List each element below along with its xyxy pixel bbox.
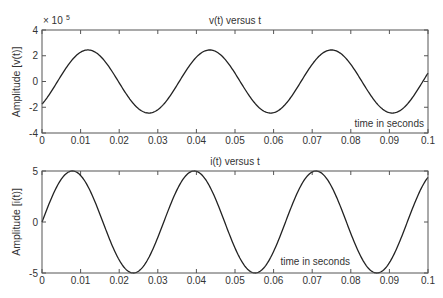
x-tick-label: 0.1 [421, 135, 435, 146]
y-tick-label: 0 [32, 76, 38, 87]
x-tick-label: 0.02 [109, 275, 129, 286]
x-tick-label: 0.07 [302, 275, 322, 286]
x-tick-label: 0.1 [421, 275, 435, 286]
y-tick-label: 0 [32, 217, 38, 228]
svg-text:× 10: × 10 [43, 15, 63, 26]
plot-i-versus-t: i(t) versus t Amplitude [i(t)] 00.010.02… [10, 156, 435, 286]
x-tick-label: 0.03 [148, 135, 168, 146]
x-tick-label: 0.06 [264, 275, 284, 286]
x-tick-label: 0.05 [225, 135, 245, 146]
y-tick-label: -4 [29, 128, 38, 139]
y-axis-label-v: Amplitude [v(t)] [10, 47, 22, 118]
x-tick-label: 0.01 [71, 275, 91, 286]
x-tick-label: 0.01 [71, 135, 91, 146]
x-tick-label: 0.07 [302, 135, 322, 146]
plot-v-versus-t: v(t) versus t × 10 5 Amplitude [v(t)] 00… [10, 14, 435, 146]
y-tick-label: -5 [29, 268, 38, 279]
time-annotation-i: time in seconds [281, 256, 350, 267]
y-tick-label: 5 [32, 166, 38, 177]
time-annotation-v: time in seconds [355, 118, 424, 129]
x-tick-label: 0.04 [187, 275, 207, 286]
x-tick-label: 0.03 [148, 275, 168, 286]
axes-box-i [42, 171, 428, 273]
y-tick-label: 2 [32, 50, 38, 61]
chart-canvas: v(t) versus t × 10 5 Amplitude [v(t)] 00… [0, 0, 443, 298]
x-tick-label: 0.09 [380, 275, 400, 286]
x-tick-label: 0.04 [187, 135, 207, 146]
y-axis-label-i: Amplitude [i(t)] [10, 188, 22, 256]
plot-title-v: v(t) versus t [209, 15, 261, 26]
x-tick-label: 0.09 [380, 135, 400, 146]
plot-title-i: i(t) versus t [210, 156, 260, 167]
x-tick-label: 0 [39, 275, 45, 286]
y-tick-label: -2 [29, 102, 38, 113]
axis-ticks-i: 00.010.020.030.040.050.060.070.080.090.1… [29, 166, 435, 287]
v-curve [42, 50, 428, 113]
i-curve [42, 171, 428, 273]
svg-text:5: 5 [66, 14, 70, 21]
exponent-label: × 10 5 [43, 14, 70, 26]
y-tick-label: 4 [32, 25, 38, 36]
x-tick-label: 0.06 [264, 135, 284, 146]
x-tick-label: 0.08 [341, 275, 361, 286]
x-tick-label: 0 [39, 135, 45, 146]
x-tick-label: 0.02 [109, 135, 129, 146]
x-tick-label: 0.08 [341, 135, 361, 146]
x-tick-label: 0.05 [225, 275, 245, 286]
